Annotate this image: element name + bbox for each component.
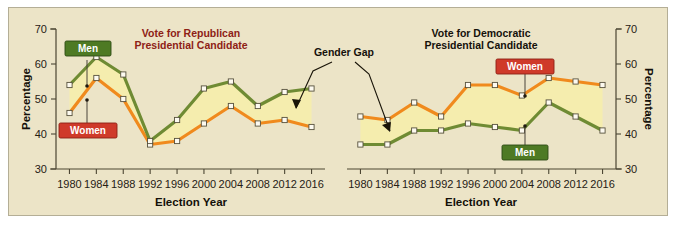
data-point-men-2008 xyxy=(255,103,260,108)
y-ticks-left xyxy=(51,29,56,169)
women-badge-label-republican: Women xyxy=(70,125,106,136)
x-ticklabel-2008: 2008 xyxy=(537,178,561,190)
y-ticklabel-50: 50 xyxy=(35,93,47,105)
x-ticks-republican xyxy=(69,169,311,174)
data-point-men-1992 xyxy=(439,128,444,133)
data-point-women-1996 xyxy=(465,82,470,87)
men-badge-anchor-republican xyxy=(85,84,89,88)
y-axis-title-left: Percentage xyxy=(20,68,32,130)
y-ticklabel-40: 40 xyxy=(35,128,47,140)
x-ticklabel-1988: 1988 xyxy=(402,178,426,190)
data-point-women-1988 xyxy=(412,100,417,105)
data-point-women-2016 xyxy=(309,124,314,129)
data-point-women-2012 xyxy=(573,79,578,84)
data-point-women-1980 xyxy=(358,114,363,119)
x-ticklabels-republican: 1980198419881992199620002004200820122016 xyxy=(57,178,324,190)
data-point-women-1992 xyxy=(439,114,444,119)
chart-republican: 3040506070 19801984198819921996200020042… xyxy=(20,23,325,208)
data-point-men-1980 xyxy=(358,142,363,147)
data-point-women-2008 xyxy=(255,121,260,126)
data-point-men-2012 xyxy=(573,114,578,119)
chart-democratic: 3040506070 19801984198819921996200020042… xyxy=(347,23,655,208)
y-ticklabel-70: 70 xyxy=(35,23,47,35)
y-ticklabel-60: 60 xyxy=(35,58,47,70)
x-ticklabel-2012: 2012 xyxy=(272,178,296,190)
x-ticklabel-2016: 2016 xyxy=(299,178,323,190)
x-ticklabel-1996: 1996 xyxy=(165,178,189,190)
data-point-women-2000 xyxy=(201,121,206,126)
data-point-men-1992 xyxy=(148,138,153,143)
gender-gap-label: Gender Gap xyxy=(314,46,374,58)
women-badge-label-democratic: Women xyxy=(507,61,543,72)
x-ticklabel-2000: 2000 xyxy=(192,178,216,190)
chart-title-democratic-line1: Vote for Democratic xyxy=(432,27,531,39)
x-ticklabel-2008: 2008 xyxy=(246,178,270,190)
data-point-men-1988 xyxy=(121,72,126,77)
x-ticklabel-1988: 1988 xyxy=(111,178,135,190)
chart-title-democratic-line2: Presidential Candidate xyxy=(424,39,537,51)
data-point-men-1996 xyxy=(465,121,470,126)
y-ticklabel-70: 70 xyxy=(625,23,637,35)
chart-title-republican-line1: Vote for Republican xyxy=(142,27,240,39)
x-ticklabels-democratic: 1980198419881992199620002004200820122016 xyxy=(348,178,615,190)
men-badge-label-democratic: Men xyxy=(515,147,535,158)
data-point-women-2008 xyxy=(546,75,551,80)
x-axis-title-democratic: Election Year xyxy=(445,196,518,208)
data-point-men-1996 xyxy=(175,117,180,122)
x-ticks-democratic xyxy=(360,169,602,174)
x-ticklabel-1992: 1992 xyxy=(138,178,162,190)
y-ticklabel-30: 30 xyxy=(35,163,47,175)
x-ticklabel-2016: 2016 xyxy=(590,178,614,190)
y-ticklabels-left: 3040506070 xyxy=(35,23,47,175)
men-badge-anchor-democratic xyxy=(523,124,527,128)
y-ticklabel-40: 40 xyxy=(625,128,637,140)
data-point-men-1984 xyxy=(385,142,390,147)
data-point-women-1988 xyxy=(121,96,126,101)
x-ticklabel-2004: 2004 xyxy=(510,178,534,190)
gender-gap-chart: 3040506070 19801984198819921996200020042… xyxy=(9,8,669,217)
data-point-women-2012 xyxy=(282,117,287,122)
y-ticklabel-30: 30 xyxy=(625,163,637,175)
data-point-men-2000 xyxy=(492,124,497,129)
x-ticklabel-1980: 1980 xyxy=(57,178,81,190)
y-ticklabel-50: 50 xyxy=(625,93,637,105)
women-badge-anchor-republican xyxy=(85,98,89,102)
data-point-men-2012 xyxy=(282,89,287,94)
y-ticks-right xyxy=(616,29,621,169)
data-point-women-1984 xyxy=(94,75,99,80)
figure-panel: 3040506070 19801984198819921996200020042… xyxy=(8,7,668,216)
data-point-men-2000 xyxy=(201,86,206,91)
data-point-men-1980 xyxy=(67,82,72,87)
x-ticklabel-1980: 1980 xyxy=(348,178,372,190)
x-ticklabel-2004: 2004 xyxy=(219,178,243,190)
y-ticklabel-60: 60 xyxy=(625,58,637,70)
data-point-men-2016 xyxy=(600,128,605,133)
chart-stage: 3040506070 19801984198819921996200020042… xyxy=(9,8,669,217)
x-ticklabel-1984: 1984 xyxy=(84,178,108,190)
x-ticklabel-1984: 1984 xyxy=(375,178,399,190)
x-ticklabel-2012: 2012 xyxy=(563,178,587,190)
x-ticklabel-1992: 1992 xyxy=(429,178,453,190)
x-ticklabel-2000: 2000 xyxy=(483,178,507,190)
data-point-women-2004 xyxy=(228,103,233,108)
x-axis-title-republican: Election Year xyxy=(155,196,228,208)
legend-badge-women-republican: Women xyxy=(59,98,117,138)
y-axis-title-right: Percentage xyxy=(643,68,655,130)
x-ticklabel-1996: 1996 xyxy=(456,178,480,190)
data-point-men-1988 xyxy=(412,128,417,133)
y-ticklabels-right: 3040506070 xyxy=(625,23,637,175)
data-point-men-2004 xyxy=(519,128,524,133)
chart-title-republican-line2: Presidential Candidate xyxy=(134,39,247,51)
data-point-men-2016 xyxy=(309,86,314,91)
data-point-women-2000 xyxy=(492,82,497,87)
women-badge-anchor-democratic xyxy=(523,94,527,98)
data-point-women-1996 xyxy=(175,138,180,143)
data-point-women-1980 xyxy=(67,110,72,115)
men-badge-label-republican: Men xyxy=(78,43,98,54)
data-point-men-2008 xyxy=(546,100,551,105)
data-point-men-2004 xyxy=(228,79,233,84)
data-point-women-2016 xyxy=(600,82,605,87)
